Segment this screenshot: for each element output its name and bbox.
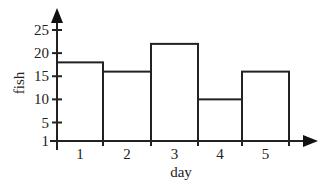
y-tick-label: 15 (34, 68, 49, 84)
x-axis-label: day (170, 164, 192, 180)
axes-group (50, 8, 318, 150)
y-tick-label: 10 (34, 91, 49, 107)
bar-day-5 (242, 72, 289, 141)
bar-day-1 (57, 62, 103, 141)
bar-day-3 (151, 44, 198, 141)
y-tick-label: 20 (34, 45, 49, 61)
histogram-chart: 1510152025 12345 fish day (0, 0, 320, 187)
x-axis-arrow-icon (303, 135, 318, 147)
y-tick-label: 25 (34, 22, 49, 38)
bars-group (57, 44, 289, 141)
y-axis-arrow-icon (51, 8, 63, 23)
x-ticks-group: 12345 (57, 141, 289, 162)
x-tick-label: 4 (216, 146, 224, 162)
y-axis-label: fish (11, 71, 27, 94)
x-tick-label: 1 (76, 146, 84, 162)
bar-day-2 (103, 72, 151, 141)
x-tick-label: 3 (171, 146, 179, 162)
y-tick-label: 5 (42, 115, 50, 131)
x-tick-label: 2 (123, 146, 131, 162)
x-tick-label: 5 (262, 146, 270, 162)
bar-day-4 (198, 99, 242, 141)
y-tick-label: 1 (42, 133, 50, 149)
